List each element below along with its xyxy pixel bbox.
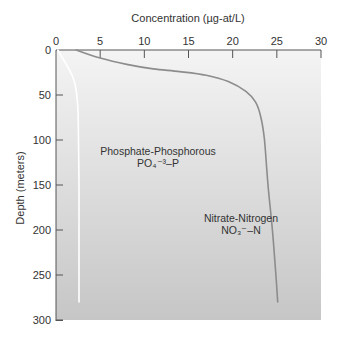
y-tick-label: 150	[33, 179, 51, 191]
x-tick-label: 30	[315, 35, 327, 47]
x-tick-label: 15	[182, 35, 194, 47]
y-tick-label: 200	[33, 224, 51, 236]
x-tick-label: 20	[227, 35, 239, 47]
y-tick-label: 50	[39, 89, 51, 101]
x-axis-label: Concentration (µg-at/L)	[131, 12, 244, 24]
x-tick-label: 5	[97, 35, 103, 47]
y-tick-label: 300	[33, 314, 51, 326]
x-tick-label: 0	[53, 35, 59, 47]
phosphate-label: Phosphate-Phosphorous	[100, 145, 216, 157]
y-axis-label: Depth (meters)	[14, 151, 26, 224]
x-tick-label: 25	[271, 35, 283, 47]
nitrate-formula: NO₃⁻–N	[221, 224, 260, 236]
nitrate-label: Nitrate-Nitrogen	[204, 212, 278, 224]
y-tick-label: 250	[33, 269, 51, 281]
y-tick-label: 100	[33, 134, 51, 146]
phosphate-formula: PO₄⁻³–P	[137, 157, 179, 169]
depth-concentration-chart: 051015202530 050100150200250300 Concentr…	[0, 0, 339, 343]
plot-area	[56, 50, 321, 320]
x-tick-label: 10	[138, 35, 150, 47]
y-tick-label: 0	[45, 44, 51, 56]
